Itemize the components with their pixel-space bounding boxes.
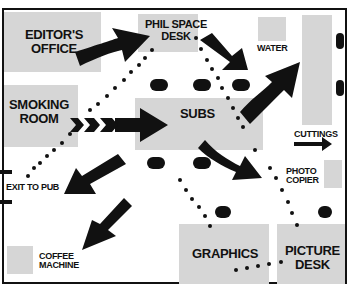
flow-arrows-icon <box>64 28 332 250</box>
arrows-and-paths <box>0 0 351 289</box>
dotted-path-icon <box>26 36 299 272</box>
